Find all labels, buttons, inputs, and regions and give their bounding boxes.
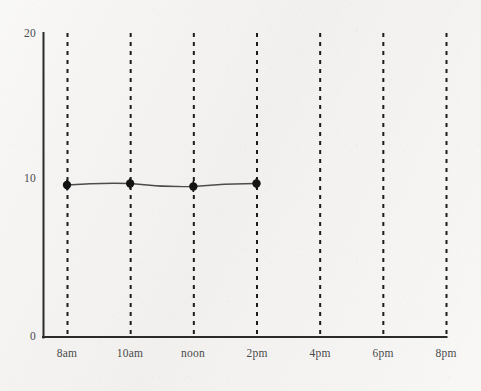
y-tick-label-20: 20 — [14, 27, 36, 39]
data-point-marker — [126, 178, 134, 189]
data-point-marker — [63, 180, 71, 191]
data-point-marker — [252, 178, 260, 189]
chart-container: 20 10 0 8am 10am noon 2pm 4pm 6pm 8pm — [0, 0, 481, 391]
x-tick-label-noon: noon — [181, 347, 205, 359]
x-tick-label-2pm: 2pm — [246, 347, 267, 359]
chart-plot-svg — [0, 0, 481, 391]
y-tick-label-10: 10 — [14, 172, 36, 184]
y-tick-label-0: 0 — [14, 330, 36, 342]
data-series-group — [63, 178, 261, 192]
x-tick-label-4pm: 4pm — [309, 347, 330, 359]
x-tick-label-10am: 10am — [117, 347, 143, 359]
series-markers — [63, 178, 261, 192]
x-tick-label-6pm: 6pm — [372, 347, 393, 359]
data-point-marker — [189, 181, 197, 192]
x-tick-label-8am: 8am — [57, 347, 77, 359]
x-tick-label-8pm: 8pm — [435, 347, 456, 359]
series-line — [67, 183, 257, 186]
